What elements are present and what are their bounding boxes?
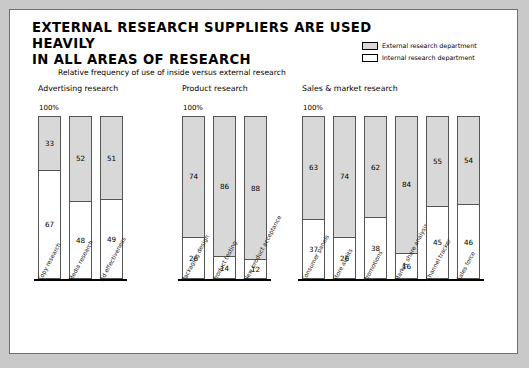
bar-value-external: 62 — [365, 163, 386, 172]
chart-group-title: Advertising research — [38, 84, 118, 93]
bar-value-external: 51 — [101, 154, 122, 163]
chart-group-title: Product research — [182, 84, 248, 93]
axis-top-label: 100% — [183, 104, 203, 112]
axis-top-label: 100% — [39, 104, 59, 112]
bar-value-external: 74 — [183, 172, 204, 181]
bar-value-external: 74 — [334, 172, 355, 181]
bar-value-external: 88 — [245, 184, 266, 193]
chart-group: Sales & market research100%6337Consumer … — [302, 10, 480, 355]
bar-value-internal: 67 — [39, 220, 60, 229]
chart-group: Product research100%7426Packaging design… — [182, 10, 267, 355]
bar-value-external: 52 — [70, 154, 91, 163]
slide-canvas: EXTERNAL RESEARCH SUPPLIERS ARE USED HEA… — [9, 9, 518, 354]
bar-value-external: 54 — [458, 156, 479, 165]
bar-value-external: 84 — [396, 180, 417, 189]
bar-value-external: 33 — [39, 139, 60, 148]
bar-value-external: 86 — [214, 182, 235, 191]
axis-top-label: 100% — [303, 104, 323, 112]
bar-value-external: 55 — [427, 157, 448, 166]
bar-value-external: 63 — [303, 163, 324, 172]
bar-value-internal: 46 — [458, 238, 479, 247]
chart-group-title: Sales & market research — [302, 84, 398, 93]
chart-group: Advertising research100%3367Copy researc… — [38, 10, 123, 355]
